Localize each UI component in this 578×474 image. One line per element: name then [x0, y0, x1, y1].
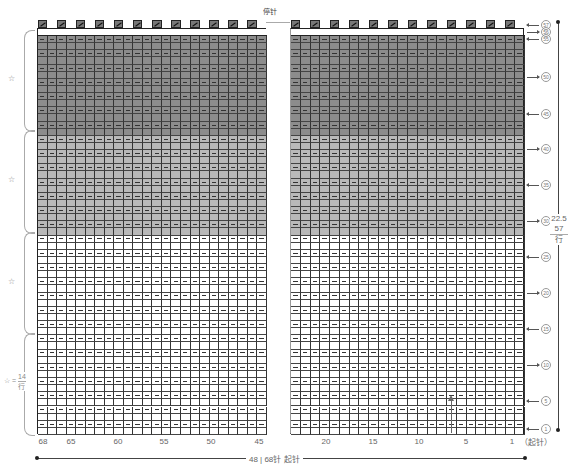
knit-stitch-cell [301, 157, 311, 164]
knit-stitch-cell [476, 385, 486, 392]
column-number: 45 [255, 437, 264, 446]
purl-stitch-cell [301, 179, 311, 186]
knit-stitch-cell [143, 414, 153, 421]
knit-stitch-cell [369, 257, 379, 264]
knit-stitch-cell [248, 72, 258, 79]
knit-stitch-cell [152, 342, 162, 349]
purl-stitch-cell [311, 264, 321, 271]
knit-stitch-cell [437, 271, 447, 278]
purl-stitch-cell [350, 36, 360, 43]
knit-stitch-cell [162, 143, 172, 150]
knit-stitch-cell [181, 271, 191, 278]
knit-stitch-cell [350, 228, 360, 235]
knit-stitch-cell [57, 371, 67, 378]
knit-stitch-cell [200, 342, 210, 349]
purl-stitch-cell [95, 122, 105, 129]
knit-stitch-cell [496, 328, 506, 335]
purl-stitch-cell [48, 150, 58, 157]
purl-stitch-cell [437, 193, 447, 200]
purl-stitch-cell [515, 350, 525, 357]
purl-stitch-cell [350, 122, 360, 129]
knit-stitch-cell [105, 57, 115, 64]
knit-stitch-cell [515, 171, 525, 178]
knit-stitch-cell [515, 271, 525, 278]
knit-stitch-cell [76, 271, 86, 278]
knit-stitch-cell [143, 143, 153, 150]
purl-stitch-cell [389, 264, 399, 271]
knit-stitch-cell [95, 428, 105, 435]
purl-stitch-cell [95, 164, 105, 171]
purl-stitch-cell [95, 264, 105, 271]
purl-stitch-cell [181, 293, 191, 300]
purl-stitch-cell [486, 378, 496, 385]
knit-stitch-cell [257, 43, 267, 50]
purl-stitch-cell [428, 307, 438, 314]
purl-stitch-cell [447, 378, 457, 385]
knit-stitch-cell [38, 385, 48, 392]
purl-stitch-cell [210, 207, 220, 214]
purl-stitch-cell [210, 321, 220, 328]
purl-stitch-cell [359, 179, 369, 186]
purl-stitch-cell [350, 236, 360, 243]
knit-stitch-cell [38, 57, 48, 64]
knit-stitch-cell [86, 399, 96, 406]
chart-row [38, 86, 266, 93]
knit-stitch-cell [496, 228, 506, 235]
purl-stitch-cell [95, 93, 105, 100]
purl-stitch-cell [486, 93, 496, 100]
knit-stitch-cell [408, 57, 418, 64]
row-number-label: 5 [527, 396, 551, 406]
purl-stitch-cell [359, 136, 369, 143]
knit-stitch-cell [496, 57, 506, 64]
knit-stitch-cell [257, 314, 267, 321]
knit-stitch-cell [389, 357, 399, 364]
purl-stitch-cell [437, 335, 447, 342]
purl-stitch-cell [437, 93, 447, 100]
purl-stitch-cell [48, 207, 58, 214]
knit-stitch-cell [369, 186, 379, 193]
purl-stitch-cell [389, 164, 399, 171]
purl-stitch-cell [143, 207, 153, 214]
knit-stitch-cell [181, 143, 191, 150]
knit-stitch-cell [457, 43, 467, 50]
knit-stitch-cell [330, 399, 340, 406]
chart-row [38, 392, 266, 399]
cast-on-label: （起针） [520, 436, 552, 447]
purl-stitch-cell [398, 321, 408, 328]
knit-stitch-cell [311, 228, 321, 235]
knit-stitch-cell [143, 157, 153, 164]
knit-stitch-cell [57, 243, 67, 250]
knit-stitch-cell [359, 200, 369, 207]
knit-stitch-cell [57, 171, 67, 178]
purl-stitch-cell [301, 50, 311, 57]
purl-stitch-cell [86, 392, 96, 399]
purl-stitch-cell [86, 179, 96, 186]
purl-stitch-cell [171, 278, 181, 285]
purl-stitch-cell [48, 278, 58, 285]
purl-stitch-cell [229, 278, 239, 285]
purl-stitch-cell [320, 378, 330, 385]
purl-stitch-cell [38, 421, 48, 428]
purl-stitch-cell [447, 350, 457, 357]
purl-stitch-cell [467, 392, 477, 399]
purl-stitch-cell [114, 207, 124, 214]
purl-stitch-cell [152, 421, 162, 428]
purl-stitch-cell [124, 378, 134, 385]
purl-stitch-cell [447, 221, 457, 228]
purl-stitch-cell [418, 321, 428, 328]
purl-stitch-cell [229, 79, 239, 86]
knit-stitch-cell [210, 114, 220, 121]
knit-stitch-cell [181, 228, 191, 235]
knit-stitch-cell [210, 228, 220, 235]
knit-stitch-cell [476, 214, 486, 221]
purl-stitch-cell [76, 221, 86, 228]
purl-stitch-cell [506, 321, 516, 328]
purl-stitch-cell [437, 79, 447, 86]
knit-stitch-cell [457, 214, 467, 221]
knit-stitch-cell [506, 228, 516, 235]
purl-stitch-cell [86, 335, 96, 342]
chart-row [38, 342, 266, 349]
knit-stitch-cell [291, 86, 301, 93]
row-number: 15 [541, 324, 551, 334]
purl-stitch-cell [238, 122, 248, 129]
